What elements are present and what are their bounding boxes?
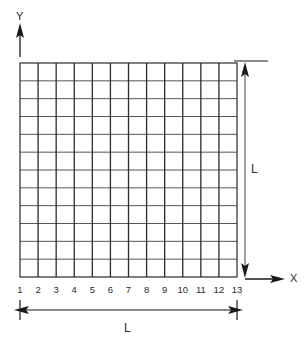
y-axis-label: Y [16, 11, 23, 22]
x-tick-label: 1 [17, 285, 22, 295]
x-tick-label: 11 [196, 285, 206, 295]
horizontal-dimension-label: L [124, 322, 131, 334]
x-tick-label: 3 [54, 285, 59, 295]
vertical-dimension-line [241, 62, 249, 278]
x-tick-label: 4 [72, 285, 77, 295]
x-tick-label: 8 [144, 285, 149, 295]
grid-diagram-svg [0, 0, 307, 342]
x-tick-label: 6 [108, 285, 113, 295]
vertical-dimension-label: L [251, 163, 258, 175]
x-tick-label: 12 [214, 285, 225, 295]
y-axis-arrow [16, 23, 24, 57]
x-tick-label: 9 [162, 285, 167, 295]
x-tick-label: 13 [232, 285, 243, 295]
x-axis-label: X [290, 273, 297, 284]
x-tick-label: 10 [177, 285, 188, 295]
x-tick-label: 2 [35, 285, 40, 295]
diagram-canvas: Y X L L 12345678910111213 [0, 0, 307, 342]
horizontal-dimension-line [14, 300, 243, 320]
x-tick-label: 7 [126, 285, 131, 295]
x-axis-arrow [245, 275, 285, 283]
x-tick-label: 5 [90, 285, 95, 295]
